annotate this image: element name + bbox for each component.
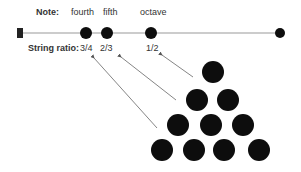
triangle-dot xyxy=(217,89,239,111)
triangle-dot xyxy=(167,114,189,136)
triangle-dot xyxy=(232,114,254,136)
note-fifth: fifth xyxy=(103,7,118,17)
triangle-dot xyxy=(183,139,205,161)
arrow-fifth xyxy=(121,57,176,100)
fret-dot-octave xyxy=(145,27,157,39)
ratio-octave: 1/2 xyxy=(146,43,159,53)
note-fourth: fourth xyxy=(71,7,94,17)
fret-dot-fourth xyxy=(80,27,92,39)
string-end-dot xyxy=(275,28,285,38)
fret-dot-fifth xyxy=(101,27,113,39)
note-octave: octave xyxy=(140,7,167,17)
note-title: Note: xyxy=(36,7,59,17)
triangle-dot xyxy=(200,114,222,136)
ratio-title: String ratio: xyxy=(28,43,79,53)
triangle-dot xyxy=(248,139,270,161)
ratio-fourth: 3/4 xyxy=(80,43,93,53)
triangle-dot xyxy=(213,139,235,161)
arrow-octave xyxy=(162,55,193,77)
ratio-fifth: 2/3 xyxy=(100,43,113,53)
triangle-dot xyxy=(202,61,224,83)
triangle-dot xyxy=(186,89,208,111)
string-bridge xyxy=(17,28,23,38)
arrow-fourth xyxy=(94,58,157,128)
tetractys-diagram: Note: fourth fifth octave String ratio: … xyxy=(0,0,301,172)
triangle-dot xyxy=(151,139,173,161)
tetractys-triangle xyxy=(151,61,270,161)
